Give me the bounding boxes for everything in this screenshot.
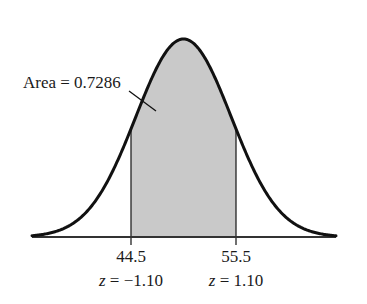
- z-label-right: z = 1.10: [208, 271, 263, 290]
- area-annotation: Area = 0.7286: [23, 73, 121, 92]
- shaded-area: [131, 39, 236, 237]
- z-value: = −1.10: [106, 271, 163, 290]
- normal-distribution-figure: Area = 0.7286 44.5 55.5 z = −1.10 z = 1.…: [0, 0, 367, 304]
- x-tick-label-55-5: 55.5: [221, 247, 251, 266]
- z-value: = 1.10: [215, 271, 263, 290]
- z-label-left: z = −1.10: [98, 271, 163, 290]
- x-tick-label-44-5: 44.5: [116, 247, 146, 266]
